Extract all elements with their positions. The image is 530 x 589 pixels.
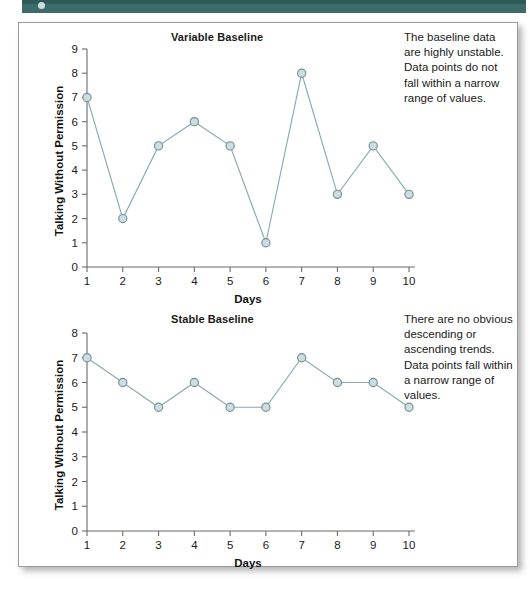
- svg-text:4: 4: [191, 539, 198, 551]
- svg-text:9: 9: [72, 43, 78, 55]
- svg-text:6: 6: [72, 116, 78, 128]
- plot-area-1: Talking Without Permission 0123456789123…: [29, 39, 404, 297]
- svg-text:10: 10: [403, 275, 416, 287]
- svg-text:2: 2: [120, 275, 126, 287]
- svg-text:7: 7: [298, 275, 304, 287]
- chart-svg-2: 01234567812345678910: [29, 321, 404, 563]
- page-root: Variable Baseline The baseline data are …: [0, 0, 530, 589]
- x-axis-label-1: Days: [87, 293, 409, 305]
- plot-area-2: Talking Without Permission 0123456781234…: [29, 321, 404, 563]
- band-dot-icon: [38, 2, 45, 9]
- chart-svg-1: 012345678912345678910: [29, 39, 404, 297]
- svg-text:7: 7: [298, 539, 304, 551]
- svg-text:10: 10: [403, 539, 416, 551]
- svg-text:3: 3: [155, 539, 161, 551]
- svg-text:2: 2: [120, 539, 126, 551]
- svg-text:4: 4: [72, 426, 79, 438]
- figure-stable-baseline: Stable Baseline There are no obvious des…: [19, 305, 519, 568]
- svg-text:6: 6: [263, 275, 269, 287]
- svg-text:7: 7: [72, 352, 78, 364]
- svg-text:1: 1: [84, 539, 90, 551]
- svg-text:1: 1: [72, 500, 78, 512]
- svg-text:5: 5: [227, 275, 233, 287]
- svg-text:2: 2: [72, 213, 78, 225]
- svg-text:9: 9: [370, 539, 376, 551]
- svg-text:6: 6: [72, 377, 78, 389]
- chart-annotation-2: There are no obvious descending or ascen…: [404, 312, 514, 403]
- svg-text:3: 3: [72, 188, 78, 200]
- svg-text:3: 3: [155, 275, 161, 287]
- svg-text:8: 8: [72, 67, 78, 79]
- svg-text:7: 7: [72, 91, 78, 103]
- svg-text:8: 8: [72, 327, 78, 339]
- svg-text:4: 4: [72, 164, 79, 176]
- x-axis-label-2: Days: [87, 557, 409, 569]
- svg-text:6: 6: [263, 539, 269, 551]
- top-band-shadow: [22, 0, 526, 4]
- svg-text:5: 5: [72, 401, 78, 413]
- svg-text:4: 4: [191, 275, 198, 287]
- chart-annotation-1: The baseline data are highly unstable. D…: [404, 30, 514, 106]
- svg-text:3: 3: [72, 451, 78, 463]
- svg-text:8: 8: [334, 275, 340, 287]
- svg-text:1: 1: [72, 237, 78, 249]
- svg-text:9: 9: [370, 275, 376, 287]
- svg-text:0: 0: [72, 525, 78, 537]
- band-gap: [0, 13, 530, 22]
- svg-text:8: 8: [334, 539, 340, 551]
- content-panel: Variable Baseline The baseline data are …: [18, 22, 518, 567]
- svg-text:5: 5: [227, 539, 233, 551]
- svg-text:5: 5: [72, 140, 78, 152]
- svg-text:0: 0: [72, 261, 78, 273]
- figure-variable-baseline: Variable Baseline The baseline data are …: [19, 23, 519, 305]
- svg-text:2: 2: [72, 476, 78, 488]
- svg-text:1: 1: [84, 275, 90, 287]
